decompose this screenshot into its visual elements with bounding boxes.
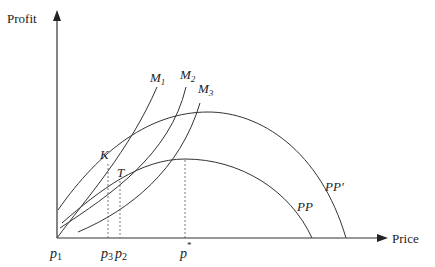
profit-price-diagram: Profit Price M1 M2 M3 PP PP′ K T p1 p3 p… [0, 0, 435, 267]
label-m3: M3 [197, 81, 214, 98]
label-t: T [117, 165, 125, 180]
x-axis-label: Price [392, 231, 419, 246]
y-axis-arrow-icon [53, 10, 61, 21]
tick-pstar: p* [179, 240, 192, 261]
tick-p2: p2 [114, 246, 127, 262]
tick-p1: p1 [49, 246, 62, 262]
y-axis-label: Profit [7, 11, 37, 26]
label-m1: M1 [149, 70, 165, 87]
x-axis-arrow-icon [377, 234, 388, 242]
curve-pp [62, 159, 312, 238]
curve-m1 [57, 87, 157, 238]
diagram-canvas: Profit Price M1 M2 M3 PP PP′ K T p1 p3 p… [0, 0, 435, 267]
curve-m2 [60, 87, 186, 228]
label-m2: M2 [179, 67, 196, 84]
curve-pp-prime [58, 112, 346, 238]
label-k: K [99, 147, 110, 162]
label-pp: PP [296, 199, 313, 214]
label-pp-prime: PP′ [324, 179, 344, 194]
tick-p3: p3 [100, 246, 113, 262]
